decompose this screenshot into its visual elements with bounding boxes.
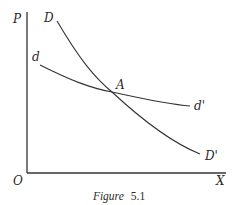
curve-D	[57, 21, 200, 154]
curve-D-start-label: D	[43, 11, 54, 25]
origin-label: O	[13, 174, 23, 188]
figure-diagram: P D d A d' D' O X Figure 5.1	[0, 0, 239, 205]
figure-caption: Figure 5.1	[92, 186, 146, 203]
caption-italic: Figure	[92, 190, 124, 203]
curve-D-end-label: D'	[204, 149, 218, 163]
caption-number: 5.1	[131, 190, 146, 202]
y-axis-label: P	[12, 12, 22, 26]
intersection-label: A	[115, 78, 125, 92]
curve-d-end-label: d'	[194, 99, 205, 113]
curve-d-start-label: d	[32, 50, 40, 64]
x-axis-label: X	[215, 174, 225, 188]
curve-d	[40, 65, 190, 106]
